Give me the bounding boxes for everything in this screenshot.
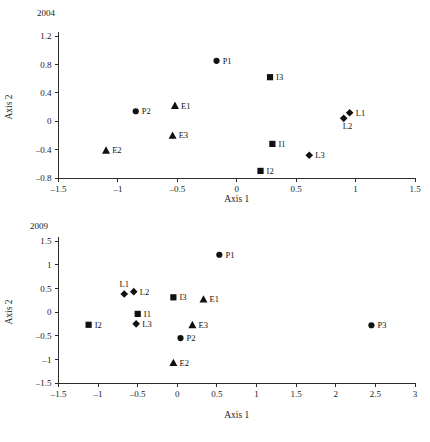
y-tick-label: 0.8	[40, 60, 52, 70]
y-tick-label: 1	[47, 260, 52, 270]
point-label-P2: P2	[142, 106, 151, 116]
point-label-I2: I2	[95, 320, 102, 330]
y-tick-label: –0.8	[35, 173, 52, 183]
point-label-L1: L1	[120, 279, 129, 289]
x-tick-label: –1	[93, 389, 103, 399]
chart-panel-2009: 2009 –1.5–1–0.500.511.522.531.510.50–0.5…	[0, 215, 430, 442]
marker-square-I2	[257, 168, 263, 174]
scatter-plot-2004: –1.5–1–0.500.511.51.20.80.40–0.4–0.8Axis…	[0, 0, 430, 215]
scatter-plot-2009: –1.5–1–0.500.511.522.531.510.50–0.5–1–1.…	[0, 215, 430, 442]
y-axis-title: Axis 2	[4, 94, 14, 119]
point-label-I3: I3	[179, 292, 186, 302]
point-label-E2: E2	[112, 145, 121, 155]
y-tick-label: –0.5	[35, 331, 52, 341]
marker-diamond-L2	[130, 288, 138, 296]
y-axis-title: Axis 2	[4, 299, 14, 324]
point-label-L2: L2	[140, 287, 149, 297]
marker-square-I3	[267, 74, 273, 80]
x-tick-label: 2.5	[370, 389, 382, 399]
y-tick-label: –1.5	[35, 378, 52, 388]
point-label-E1: E1	[210, 294, 219, 304]
point-label-E3: E3	[179, 130, 188, 140]
point-label-E2: E2	[179, 358, 188, 368]
marker-diamond-L3	[305, 151, 313, 159]
x-tick-label: –0.5	[168, 184, 185, 194]
point-label-I1: I1	[144, 309, 151, 319]
point-label-L3: L3	[142, 319, 151, 329]
marker-square-I2	[86, 322, 92, 328]
x-tick-label: 3	[413, 389, 418, 399]
marker-triangle-E2	[169, 359, 177, 366]
x-tick-label: 0	[235, 184, 240, 194]
x-tick-label: –1	[112, 184, 122, 194]
chart-panel-2004: 2004 –1.5–1–0.500.511.51.20.80.40–0.4–0.…	[0, 0, 430, 215]
y-tick-label: –1	[42, 355, 52, 365]
marker-triangle-E2	[102, 146, 110, 153]
x-tick-label: 2	[334, 389, 339, 399]
x-tick-label: –1.5	[50, 184, 67, 194]
point-label-E3: E3	[198, 320, 207, 330]
x-tick-label: –1.5	[50, 389, 67, 399]
marker-triangle-E3	[188, 321, 196, 328]
marker-diamond-L1	[120, 290, 128, 298]
marker-diamond-L1	[346, 109, 354, 117]
x-axis-title: Axis 1	[224, 410, 249, 420]
y-tick-label: 1.2	[40, 31, 51, 41]
y-tick-label: 0	[47, 307, 52, 317]
point-label-I2: I2	[267, 166, 274, 176]
y-tick-label: 0	[47, 116, 52, 126]
point-label-P3: P3	[378, 320, 387, 330]
point-label-P1: P1	[223, 56, 232, 66]
y-tick-label: 1.5	[40, 236, 52, 246]
marker-triangle-E1	[171, 102, 179, 109]
point-label-L1: L1	[356, 108, 365, 118]
marker-square-I1	[269, 141, 275, 147]
marker-circle-P3	[368, 322, 374, 328]
marker-circle-P2	[177, 335, 183, 341]
y-tick-label: –0.4	[35, 145, 52, 155]
point-label-I3: I3	[276, 72, 283, 82]
x-tick-label: 0.5	[291, 184, 303, 194]
y-tick-label: 0.4	[40, 88, 52, 98]
marker-circle-P1	[213, 58, 219, 64]
x-tick-label: 1	[254, 389, 259, 399]
marker-square-I1	[135, 311, 141, 317]
x-axis-title: Axis 1	[224, 194, 249, 204]
x-tick-label: 0.5	[211, 389, 223, 399]
y-tick-label: 0.5	[40, 284, 52, 294]
marker-circle-P2	[133, 108, 139, 114]
x-tick-label: –0.5	[129, 389, 146, 399]
marker-diamond-L3	[132, 320, 140, 328]
point-label-L2: L2	[343, 121, 352, 131]
marker-circle-P1	[216, 252, 222, 258]
x-tick-label: 0	[175, 389, 180, 399]
x-tick-label: 1.5	[409, 184, 421, 194]
point-label-L3: L3	[315, 150, 324, 160]
marker-square-I3	[170, 294, 176, 300]
point-label-P2: P2	[187, 333, 196, 343]
x-tick-label: 1.5	[291, 389, 303, 399]
point-label-E1: E1	[181, 101, 190, 111]
point-label-P1: P1	[225, 250, 234, 260]
point-label-I1: I1	[279, 139, 286, 149]
marker-triangle-E3	[169, 131, 177, 138]
marker-triangle-E1	[199, 295, 207, 302]
ordination-figure: 2004 –1.5–1–0.500.511.51.20.80.40–0.4–0.…	[0, 0, 430, 442]
x-tick-label: 1	[353, 184, 358, 194]
